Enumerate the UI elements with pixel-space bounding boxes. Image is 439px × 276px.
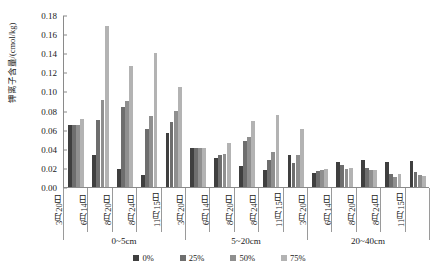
legend-label: 75% [290, 254, 306, 263]
group-label: 20~40cm [307, 236, 429, 246]
x-axis-tick-label: 11月15日 [395, 190, 439, 230]
bar [324, 169, 328, 187]
bar [349, 168, 353, 187]
legend-swatch-icon [180, 255, 186, 261]
bar [398, 174, 402, 187]
legend-swatch-icon [133, 255, 139, 261]
y-axis-tick-label: 0.16 [41, 30, 63, 40]
y-axis-tick-label: 0.06 [41, 126, 63, 136]
legend-label: 0% [142, 254, 153, 263]
legend-label: 25% [189, 254, 205, 263]
bar [373, 170, 377, 187]
legend-label: 50% [239, 254, 255, 263]
bar [154, 53, 158, 187]
bar [80, 119, 84, 187]
y-axis-tick-label: 0.02 [41, 164, 63, 174]
bar [422, 176, 426, 187]
bar [300, 129, 304, 187]
legend-swatch-icon [281, 255, 287, 261]
legend-item[interactable]: 75% [281, 254, 306, 263]
group-label: 0~5cm [63, 236, 185, 246]
legend-item[interactable]: 0% [133, 254, 153, 263]
group-separator [429, 232, 430, 240]
bar [251, 121, 255, 187]
legend-item[interactable]: 50% [230, 254, 255, 263]
y-axis-tick-label: 0.08 [41, 107, 63, 117]
bar [227, 143, 231, 187]
bar [202, 148, 206, 187]
group-axis: 0~5cm5~20cm20~40cm [63, 232, 429, 250]
group-label: 5~20cm [185, 236, 307, 246]
bar [276, 115, 280, 187]
y-axis-tick-label: 0.04 [41, 145, 63, 155]
bar-chart: 钾离子含量/(cmol/kg) 0.180.160.140.120.100.08… [0, 0, 439, 276]
bar [129, 66, 133, 187]
legend-item[interactable]: 25% [180, 254, 205, 263]
bar [105, 26, 109, 187]
chart-legend: 0%25%50%75% [0, 254, 439, 263]
plot-area: 0.180.160.140.120.100.080.060.040.020.00 [63, 16, 429, 188]
bars-layer [64, 16, 429, 187]
legend-swatch-icon [230, 255, 236, 261]
y-axis-tick-label: 0.18 [41, 11, 63, 21]
y-axis-tick-label: 0.12 [41, 68, 63, 78]
bar [178, 87, 182, 187]
y-axis-title: 钾离子含量/(cmol/kg) [7, 3, 17, 123]
y-axis-tick-label: 0.10 [41, 87, 63, 97]
category-axis: 3月20日6月14日8月20日8月24日11月15日3月20日6月14日8月20… [63, 188, 429, 232]
y-axis-tick-label: 0.14 [41, 49, 63, 59]
